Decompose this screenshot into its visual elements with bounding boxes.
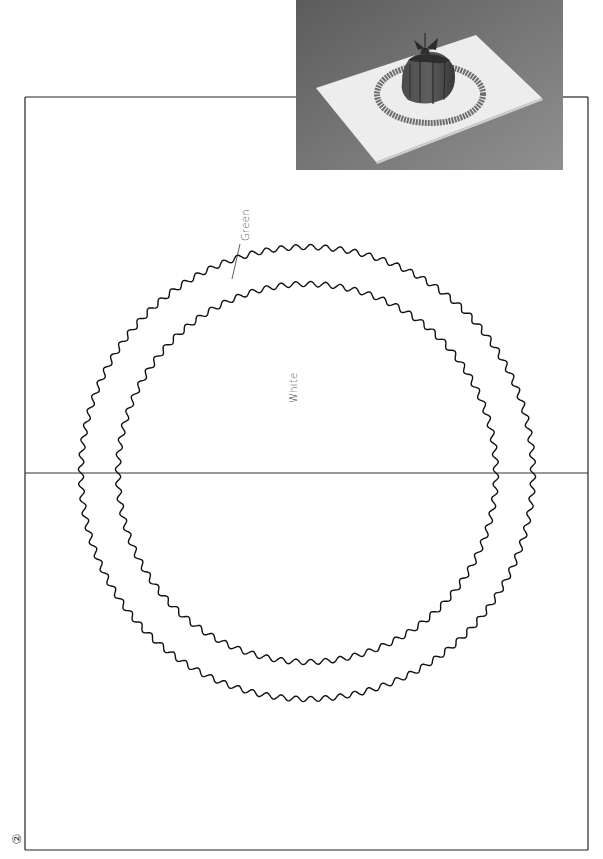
- white-color-label: White: [288, 372, 299, 403]
- outer-scalloped-circle: [78, 244, 535, 701]
- inner-scalloped-circle: [115, 281, 498, 664]
- pattern-page: Green White ②: [0, 0, 603, 859]
- step-number: ②: [10, 832, 24, 846]
- popup-cake-photo-icon: [296, 0, 563, 170]
- green-leader-line: [232, 244, 240, 279]
- green-color-label: Green: [240, 209, 251, 241]
- finished-card-photo: [296, 0, 563, 170]
